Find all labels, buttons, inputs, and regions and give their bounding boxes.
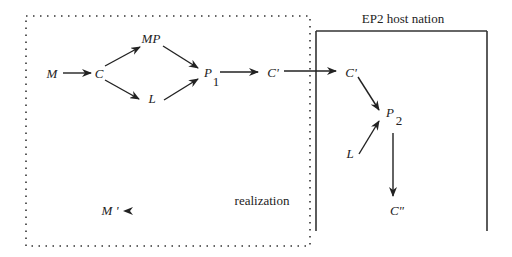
node-p2: P 2 bbox=[385, 105, 402, 128]
node-p1-label: P bbox=[203, 65, 212, 80]
realization-label: realization bbox=[235, 193, 290, 208]
node-mp: MP bbox=[141, 31, 161, 46]
edge-c2-to-p2 bbox=[358, 77, 379, 110]
node-c3: C" bbox=[390, 203, 405, 218]
node-l1: L bbox=[147, 91, 155, 106]
node-c: C bbox=[95, 66, 104, 81]
edge-l-to-p1 bbox=[164, 79, 198, 100]
node-p2-subscript: 2 bbox=[396, 113, 403, 128]
node-l2: L bbox=[345, 146, 353, 161]
edge-c-to-l bbox=[105, 80, 139, 99]
edge-c-to-mp bbox=[105, 47, 140, 66]
node-p1: P 1 bbox=[203, 65, 219, 89]
edge-mp-to-p1 bbox=[163, 46, 198, 68]
node-m2: M ' bbox=[101, 203, 119, 218]
node-m: M bbox=[46, 66, 59, 81]
host-nation-box bbox=[316, 31, 487, 231]
circuit-of-capital-diagram: EP2 host nation realization M C MP L P 1… bbox=[0, 0, 512, 257]
host-nation-title: EP2 host nation bbox=[362, 11, 445, 26]
node-p2-label: P bbox=[385, 105, 394, 120]
edge-l2-to-p2 bbox=[359, 121, 379, 154]
node-c1: C' bbox=[267, 65, 279, 80]
node-c2: C' bbox=[345, 65, 357, 80]
node-p1-subscript: 1 bbox=[213, 74, 220, 89]
